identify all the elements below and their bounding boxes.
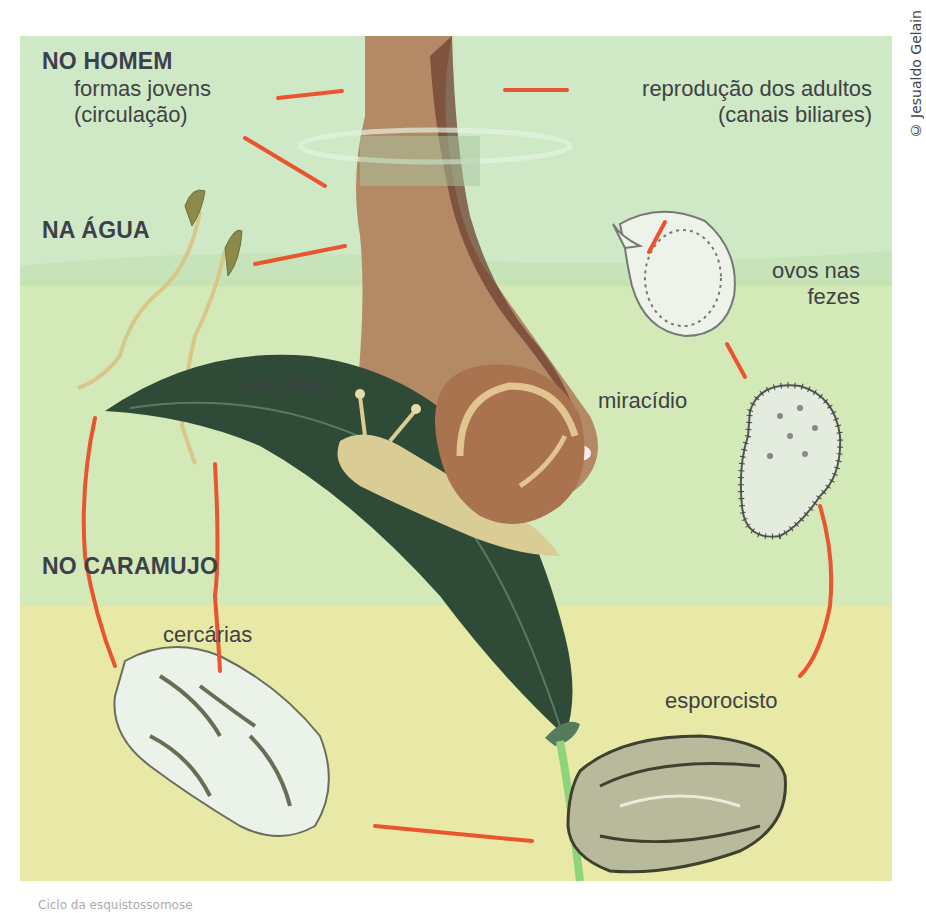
sporocyst-illustration xyxy=(568,736,785,872)
image-credit: © Jesualdo Gelain xyxy=(908,10,924,138)
life-cycle-diagram: NO HOMEM NA ÁGUA NO CARAMUJO formas jove… xyxy=(20,36,892,881)
label-young-forms-line1: formas jovens xyxy=(74,76,211,102)
label-adult-reproduction-line2: (canais biliares) xyxy=(580,102,872,128)
zone-label-snail: NO CARAMUJO xyxy=(42,553,218,580)
figure-caption: Ciclo da esquistossomose xyxy=(38,898,193,913)
label-adult-reproduction: reprodução dos adultos (canais biliares) xyxy=(580,76,872,128)
label-sporocyst: esporocisto xyxy=(665,688,778,714)
miracidium-illustration xyxy=(741,385,840,536)
label-cercariae-snail: cercárias xyxy=(163,622,252,648)
diagram-artwork xyxy=(20,36,892,881)
label-eggs-line2: fezes xyxy=(740,284,860,310)
label-miracidium: miracídio xyxy=(598,388,687,414)
zone-label-human: NO HOMEM xyxy=(42,48,173,75)
daughter-sporocyst-illustration xyxy=(114,647,328,836)
label-eggs-in-feces: ovos nas fezes xyxy=(740,258,860,310)
zone-label-water: NA ÁGUA xyxy=(42,217,150,244)
label-eggs-line1: ovos nas xyxy=(740,258,860,284)
label-young-forms: formas jovens (circulação) xyxy=(74,76,211,128)
label-young-forms-line2: (circulação) xyxy=(74,102,211,128)
label-adult-reproduction-line1: reprodução dos adultos xyxy=(580,76,872,102)
label-cercariae-water: cercárias xyxy=(242,373,331,399)
egg-illustration xyxy=(613,212,735,336)
